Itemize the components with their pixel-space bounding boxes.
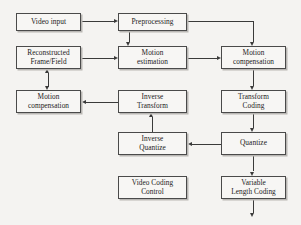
arrowhead-preprocessing-to-motion-compensation [250,42,254,46]
node-quantize-label: Quantize [240,139,267,148]
node-video-input-label: Video input [31,18,66,27]
node-motion-compensation-top[interactable]: Motion compensation [221,46,286,69]
node-motion-compensation-top-label: Motion compensation [233,49,274,66]
edge-video-input-to-preprocessing [81,21,114,22]
node-motion-compensation-bottom-label: Motion compensation [28,93,69,110]
edge-variable-length-coding-output [253,199,254,213]
node-inverse-quantize[interactable]: Inverse Quantize [118,132,187,155]
block-diagram: Video input Preprocessing Reconstructed … [0,0,301,225]
edge-quantize-to-inverse-quantize [192,144,221,145]
edge-quantize-to-variable-length-coding [253,155,254,171]
node-preprocessing[interactable]: Preprocessing [118,13,187,31]
edge-motion-estimation-to-motion-compensation [187,58,217,59]
node-video-coding-control-label: Video Coding Control [132,179,173,196]
edge-preprocessing-to-motion-estimation [129,31,130,42]
node-reconstructed-frame-field-label: Reconstructed Frame/Field [27,49,69,66]
node-reconstructed-frame-field[interactable]: Reconstructed Frame/Field [16,46,81,69]
node-motion-estimation[interactable]: Motion estimation [118,46,187,69]
arrowhead-motion-compensation-to-transform-coding [250,86,254,90]
node-variable-length-coding[interactable]: Variable Length Coding [221,176,286,199]
node-quantize[interactable]: Quantize [221,132,286,155]
node-preprocessing-label: Preprocessing [131,18,173,27]
edge-motion-compensation-to-transform-coding [253,69,254,86]
node-inverse-quantize-label: Inverse Quantize [139,135,166,152]
arrowhead-quantize-to-variable-length-coding [250,172,254,176]
edge-transform-coding-to-quantize [253,113,254,128]
edge-inverse-transform-to-motion-compensation [86,102,118,103]
arrowhead-inverse-quantize-to-inverse-transform [149,113,153,117]
arrowhead-transform-coding-to-quantize [250,128,254,132]
arrowhead-quantize-to-inverse-quantize [188,142,192,146]
node-transform-coding[interactable]: Transform Coding [221,90,286,113]
node-transform-coding-label: Transform Coding [238,93,269,110]
arrowhead-inverse-transform-to-motion-compensation [82,100,86,104]
node-inverse-transform-label: Inverse Transform [137,93,168,110]
node-video-input[interactable]: Video input [16,13,81,31]
arrowhead-preprocessing-to-motion-estimation [126,42,130,46]
edge-preprocessing-to-motion-compensation-horizontal [187,21,254,22]
node-variable-length-coding-label: Variable Length Coding [231,179,276,196]
edge-reconstructed-to-motion-estimation [81,58,114,59]
edge-inverse-quantize-to-inverse-transform [152,117,153,132]
node-motion-compensation-bottom[interactable]: Motion compensation [16,90,81,113]
node-inverse-transform[interactable]: Inverse Transform [118,90,187,113]
edge-preprocessing-to-motion-compensation-vertical [253,21,254,42]
arrowhead-motion-compensation-to-reconstructed-down [45,86,49,90]
arrowhead-variable-length-coding-output [250,213,254,217]
node-video-coding-control[interactable]: Video Coding Control [118,176,187,199]
arrowhead-motion-compensation-to-reconstructed-up [45,69,49,73]
node-motion-estimation-label: Motion estimation [137,49,168,66]
